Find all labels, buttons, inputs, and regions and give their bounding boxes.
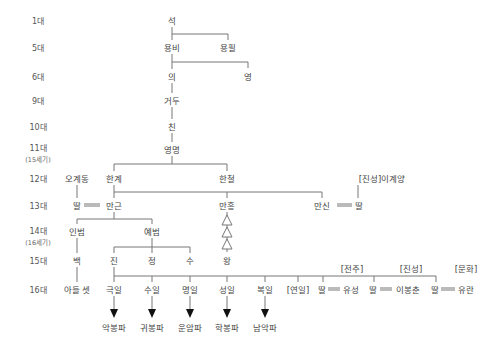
person-yongpil: 용필 [220,41,236,53]
person-geugil: 극일 [106,283,122,295]
person-jeong: 정 [148,254,156,266]
person-ogyedong: 오계동 [65,172,89,184]
century-label: (16세기) [25,237,50,247]
person-daughter-oh: 딸 [73,199,81,211]
person-su: 수 [186,254,194,266]
branch-unampa: 운암파 [178,321,202,333]
person-seok: 석 [168,14,176,26]
generation-label: 13대 [29,200,46,211]
generation-label: 1대 [32,15,44,26]
person-suil: 수일 [144,283,160,295]
person-yeongmyeong: 영명 [164,143,180,155]
person-daughter-lee: 딸 [355,199,363,211]
person-ibongchun: 이봉춘 [396,283,420,295]
person-three-sons: 아들 셋 [64,283,91,295]
branch-akbongpa: 악봉파 [102,321,126,333]
generation-label: 11대 [29,142,46,153]
person-chin: 친 [168,120,176,132]
branch-hakbongpa: 학봉파 [215,321,239,333]
person-manheung: 만흥 [219,199,235,211]
person-yeonil: [연일] [287,283,310,295]
century-label: (15세기) [25,154,50,164]
person-yuran: 유란 [458,283,474,295]
branch-gwibongpa: 귀봉파 [140,321,164,333]
person-inbeom: 인범 [69,225,85,237]
branch-namakpa: 남악파 [253,321,277,333]
person-yebeom: 예범 [144,225,160,237]
person-daughter-2: 딸 [369,283,377,295]
clan-jinseong: [진성] [400,262,423,274]
person-mansin: 만신 [314,199,330,211]
person-myeongil: 명일 [182,283,198,295]
generation-label: 14대 [29,225,46,236]
person-seongil: 성일 [219,283,235,295]
person-hancheol: 한철 [219,172,235,184]
generation-label: 12대 [29,173,46,184]
person-daughter-3: 딸 [431,283,439,295]
generation-label: 16대 [29,284,46,295]
person-mangeun: 만근 [106,199,122,211]
person-bogil: 복일 [257,283,273,295]
clan-munhwa: [문화] [455,262,478,274]
person-ui: 의 [168,70,176,82]
generation-label: 9대 [32,95,44,106]
person-jin: 진 [110,254,118,266]
generation-label: 10대 [29,121,46,132]
person-yuseong: 유성 [343,283,359,295]
person-geodu: 거두 [164,94,180,106]
person-baek: 백 [73,254,81,266]
person-yeong: 영 [244,70,252,82]
person-wang: 왕 [223,254,231,266]
generation-label: 6대 [32,71,44,82]
person-igyeyang: [진성]이계양 [359,172,406,184]
generation-label: 15대 [29,255,46,266]
clan-jeonju: [전주] [341,262,364,274]
person-daughter-1: 딸 [318,283,326,295]
person-hangye: 한계 [106,172,122,184]
generation-label: 5대 [32,42,44,53]
person-yongbi: 용비 [164,41,180,53]
